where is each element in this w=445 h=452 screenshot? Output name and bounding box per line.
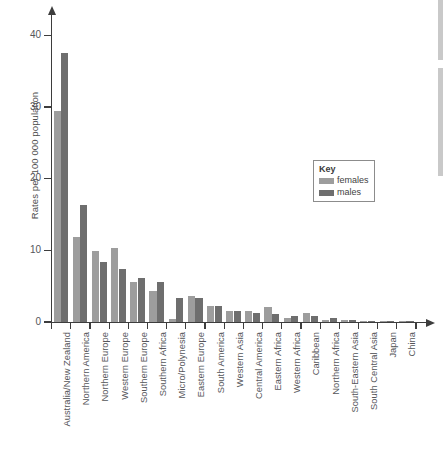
x-axis-tick-label: China [407,332,417,357]
legend-swatch-females [319,178,334,184]
x-axis-tick-mark [377,323,378,329]
bar-females [92,251,99,322]
x-axis-tick-mark [185,323,186,329]
bar-females [188,296,195,323]
legend-title: Key [319,164,336,174]
x-axis-tick-mark [128,323,129,329]
bar-group [380,14,399,322]
bar-females [149,291,156,322]
y-axis-tick-mark [44,106,51,107]
y-axis-tick-label: 30 [0,101,41,112]
bar-males [387,321,394,322]
x-axis-tick-mark [224,323,225,329]
x-axis-tick-label: Northern Africa [331,332,341,395]
x-axis-tick-label: Northern Europe [100,332,110,401]
bar-males [311,316,318,322]
x-axis-tick-label: Eastern Europe [196,332,206,397]
x-axis-tick-mark [166,323,167,329]
bar-group [226,14,245,322]
bar-group [399,14,418,322]
bar-females [54,111,61,322]
x-axis-tick-mark [339,323,340,329]
x-axis-tick-label: South Central Asia [369,332,379,410]
y-axis-tick-label: 40 [0,29,41,40]
x-axis-tick-mark [415,323,416,329]
x-axis-tick-label: Northern America [81,332,91,405]
x-axis-tick-mark [147,323,148,329]
x-axis-tick-mark [320,323,321,329]
bar-males [234,311,241,322]
x-axis-tick-mark [70,323,71,329]
bar-females [380,321,387,322]
bar-females [245,311,252,322]
bar-females [73,237,80,322]
bar-females [226,311,233,322]
x-axis-tick-mark [358,323,359,329]
bar-group [54,14,73,322]
y-axis-tick-label: 10 [0,244,41,255]
bar-females [399,321,406,322]
legend-label: females [337,175,369,185]
bar-males [368,321,375,322]
bar-males [100,262,107,322]
x-axis-tick-label: Eastern Africa [273,332,283,391]
bar-group [111,14,130,322]
x-axis-tick-mark [51,323,52,329]
x-axis-tick-label: Caribbean [311,332,321,375]
bar-females [169,319,176,322]
bar-group [188,14,207,322]
x-axis-tick-label: South-Eastern Asia [350,332,360,413]
bar-males [330,318,337,322]
x-axis-tick-mark [262,323,263,329]
bar-males [61,53,68,322]
y-axis-label: Rates per 100 000 population [29,56,40,256]
bar-males [253,313,260,322]
x-axis-tick-label: Australia/New Zealand [62,332,72,427]
bar-group [130,14,149,322]
legend-label: males [337,187,361,197]
x-axis-tick-mark [281,323,282,329]
bar-females [360,321,367,322]
bar-males [176,298,183,322]
bar-group [92,14,111,322]
x-axis-tick-label: Micro/Polynesia [177,332,187,398]
bar-females [322,320,329,322]
bar-females [303,313,310,322]
x-axis-tick-mark [396,323,397,329]
bar-group [284,14,303,322]
bar-group [264,14,283,322]
legend-key-box: Key femalesmales [313,160,375,202]
x-axis-tick-label: Central America [254,332,264,399]
bar-females [207,306,214,322]
x-axis-line [51,322,427,323]
x-axis-tick-label: South America [216,332,226,393]
bar-group [149,14,168,322]
bar-females [264,307,271,322]
y-axis-tick-mark [44,321,51,322]
x-axis-tick-mark [243,323,244,329]
x-axis-tick-mark [300,323,301,329]
bar-males [119,269,126,322]
scrollbar-artifact-top [438,0,443,60]
bar-females [284,318,291,322]
bar-males [272,314,279,322]
bar-group [169,14,188,322]
bar-females [111,248,118,322]
x-axis-tick-label: Western Africa [292,332,302,393]
bar-chart-figure: Rates per 100 000 population 010203040 A… [0,0,445,452]
x-axis-tick-mark [109,323,110,329]
bar-group [245,14,264,322]
x-axis-tick-label: Western Europe [120,332,130,400]
bar-males [80,205,87,322]
bar-females [130,282,137,322]
legend-swatch-males [319,190,334,196]
y-axis-tick-mark [44,35,51,36]
x-axis-tick-label: Southern Africa [158,332,168,396]
x-axis-tick-label: Western Asia [235,332,245,387]
bar-group [207,14,226,322]
bar-males [157,282,164,322]
bar-males [138,278,145,322]
bar-females [341,320,348,322]
y-axis-tick-label: 20 [0,172,41,183]
bar-males [349,320,356,322]
